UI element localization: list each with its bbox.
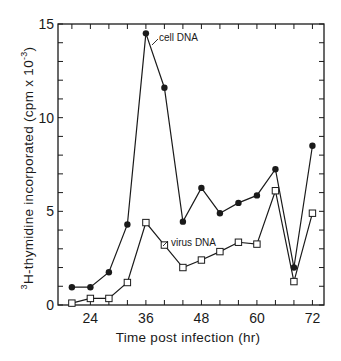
- data-point-filled-circle: [254, 192, 260, 198]
- y-tick-label: 15: [38, 16, 54, 32]
- plot-border: [58, 24, 324, 305]
- cell-dna-label: cell DNA: [159, 32, 198, 43]
- data-point-filled-circle: [198, 185, 204, 191]
- thymidine-line-chart: 2436486072051015 cell DNA virus DNA Time…: [0, 0, 341, 361]
- y-axis-title-exp: -3: [19, 51, 29, 60]
- x-tick-label: 24: [83, 310, 99, 326]
- cell-dna-pointer: [152, 39, 158, 45]
- data-point-filled-circle: [124, 221, 130, 227]
- data-point-open-square: [254, 241, 260, 247]
- x-tick-label: 60: [249, 310, 265, 326]
- virus-dna-label: virus DNA: [171, 237, 216, 248]
- data-point-filled-circle: [235, 200, 241, 206]
- data-point-filled-circle: [161, 84, 167, 90]
- data-point-open-square: [309, 210, 315, 216]
- data-point-open-square: [143, 219, 149, 225]
- data-point-filled-circle: [87, 284, 93, 290]
- data-point-open-square: [235, 239, 241, 245]
- data-point-open-square: [272, 188, 278, 194]
- x-axis-title: Time post infection (hr): [116, 330, 261, 345]
- data-point-open-square: [87, 295, 93, 301]
- y-axis-title-main: H-thymidine incorporated (cpm x 10: [21, 60, 36, 284]
- series-annotations: cell DNA virus DNA: [152, 32, 216, 248]
- data-point-filled-circle: [309, 143, 315, 149]
- data-point-filled-circle: [106, 269, 112, 275]
- x-tick-label: 72: [305, 310, 321, 326]
- svg-text:3H-thymidine incorporated (cpm: 3H-thymidine incorporated (cpm x 10-3): [19, 47, 36, 290]
- axis-tick-labels: 2436486072051015: [38, 16, 320, 326]
- data-point-open-square: [291, 278, 297, 284]
- data-point-open-square: [217, 248, 223, 254]
- data-point-filled-circle: [143, 30, 149, 36]
- axis-ticks: [58, 24, 324, 305]
- data-point-filled-circle: [69, 284, 75, 290]
- data-point-open-square: [124, 279, 130, 285]
- y-axis-title-close: ): [21, 47, 36, 52]
- y-tick-label: 0: [46, 297, 54, 313]
- x-tick-label: 48: [194, 310, 210, 326]
- y-tick-label: 5: [46, 203, 54, 219]
- data-point-open-square: [106, 295, 112, 301]
- data-point-open-square: [198, 257, 204, 263]
- series-line: [72, 33, 313, 287]
- x-tick-label: 36: [138, 310, 154, 326]
- data-point-filled-circle: [272, 166, 278, 172]
- data-point-open-square: [69, 300, 75, 306]
- data-point-open-square: [180, 264, 186, 270]
- data-point-filled-circle: [217, 210, 223, 216]
- plot-frame: [58, 24, 324, 305]
- y-axis-title: 3H-thymidine incorporated (cpm x 10-3): [19, 47, 36, 290]
- series-cell-dna: [69, 30, 316, 290]
- y-tick-label: 10: [38, 110, 54, 126]
- data-point-filled-circle: [180, 218, 186, 224]
